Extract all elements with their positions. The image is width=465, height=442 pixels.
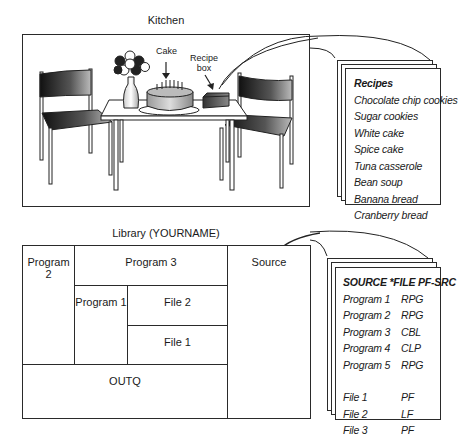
recipes-heading: Recipes: [354, 75, 440, 92]
source-file-row: File 3PF: [343, 422, 440, 439]
cake-icon: [147, 80, 193, 111]
recipe-item: Tuna casserole: [354, 158, 440, 175]
cake-arrow-icon: [162, 73, 170, 79]
source-file-row: File 2LF: [343, 406, 440, 423]
recipe-box-arrow-icon: [207, 83, 214, 90]
source-file-row: File 1PF: [343, 389, 440, 406]
source-physical-file-card: SOURCE *FILE PF-SRC Program 1RPG Program…: [335, 267, 441, 420]
library-object-file2[interactable]: File 2: [127, 285, 228, 326]
source-member-row: Program 5RPG: [343, 357, 440, 374]
source-member-row: Program 1RPG: [343, 291, 440, 308]
source-file-heading: SOURCE *FILE PF-SRC: [343, 274, 440, 291]
library-title: Library (YOURNAME): [22, 227, 310, 239]
recipe-item: Sugar cookies: [354, 108, 440, 125]
library-frame: Program 2 Program 3 Source Program 1 Fil…: [22, 245, 311, 419]
recipe-item: Chocolate chip cookies: [354, 92, 440, 109]
cake-label: Cake: [156, 46, 177, 56]
library-object-program1[interactable]: Program 1: [74, 285, 128, 365]
library-object-outq[interactable]: OUTQ: [22, 364, 228, 419]
recipe-box-label: Recipe box: [190, 53, 218, 73]
recipe-box-icon: [203, 93, 229, 108]
recipe-item: Cranberry bread: [354, 207, 440, 224]
recipe-item: Spice cake: [354, 141, 440, 158]
source-member-row: Program 2RPG: [343, 307, 440, 324]
flower-vase-icon: [114, 51, 150, 108]
source-member-row: Program 3CBL: [343, 324, 440, 341]
recipe-item: White cake: [354, 125, 440, 142]
left-chair-icon: [40, 69, 112, 184]
library-object-program2[interactable]: Program 2: [22, 245, 75, 365]
recipe-item: Bean soup: [354, 174, 440, 191]
spacer: [343, 373, 440, 389]
library-object-source[interactable]: Source: [227, 245, 311, 419]
recipe-item: Banana bread: [354, 191, 440, 208]
source-member-row: Program 4CLP: [343, 340, 440, 357]
library-object-program3[interactable]: Program 3: [74, 245, 228, 286]
library-object-file1[interactable]: File 1: [127, 325, 228, 365]
recipe-card: Recipes Chocolate chip cookies Sugar coo…: [345, 68, 441, 205]
